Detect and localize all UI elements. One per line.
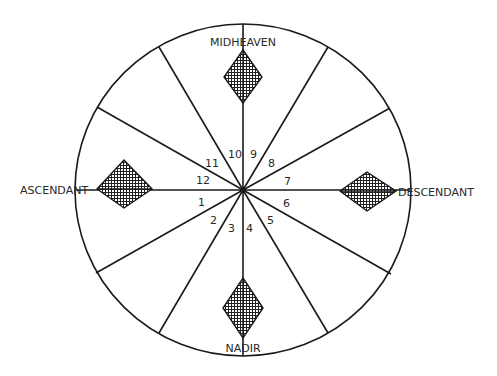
house-number: 5 [267, 214, 274, 227]
house-number: 11 [205, 157, 219, 170]
house-number: 6 [283, 197, 290, 210]
house-number: 4 [246, 222, 253, 235]
label-nadir: NADIR [225, 342, 260, 355]
house-number: 2 [210, 214, 217, 227]
house-number: 9 [250, 148, 257, 161]
house-number: 12 [196, 174, 210, 187]
house-number: 1 [198, 196, 205, 209]
house-number: 10 [228, 148, 242, 161]
house-number: 3 [228, 222, 235, 235]
center-point [240, 187, 246, 193]
house-number: 7 [284, 175, 291, 188]
label-descendant: DESCENDANT [398, 186, 474, 199]
ascendant-diamond [97, 160, 152, 208]
label-midheaven: MIDHEAVEN [210, 36, 276, 49]
house-number: 8 [268, 157, 275, 170]
house-wheel-diagram: MIDHEAVEN ASCENDANT DESCENDANT NADIR 1 2… [0, 0, 497, 376]
angle-diamonds [97, 50, 396, 338]
label-ascendant: ASCENDANT [20, 184, 88, 197]
